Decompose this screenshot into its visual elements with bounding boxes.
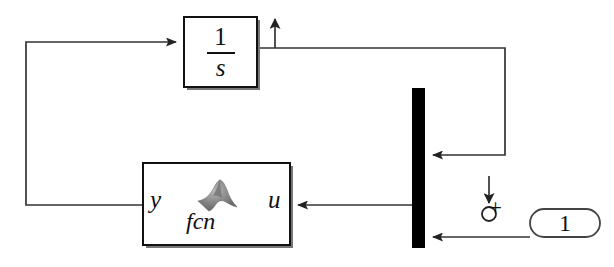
- constant-block-value: 1: [530, 209, 600, 237]
- integrator-denominator: s: [216, 55, 226, 81]
- diagram-svg: [0, 0, 614, 267]
- signal-integrator-to-mux: [257, 48, 505, 155]
- integrator-numerator: 1: [214, 24, 227, 51]
- block-diagram-canvas: 1 s y u fcn + 1: [0, 0, 614, 267]
- integrator-transfer-function: 1 s: [184, 17, 257, 87]
- function-block-caption: fcn: [186, 208, 215, 235]
- mux-block[interactable]: [412, 88, 425, 248]
- sum-sign-label: +: [489, 195, 502, 221]
- function-block-output-port-label: y: [150, 186, 161, 214]
- function-block-input-port-label: u: [268, 186, 281, 214]
